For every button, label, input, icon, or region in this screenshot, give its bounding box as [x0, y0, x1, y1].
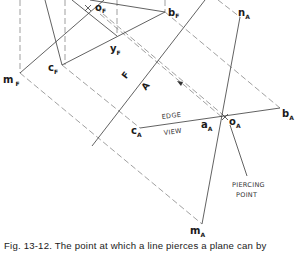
- descriptive-geometry-diagram: oF bF yF cF mF nA bA aA oA cA mA F A EDG…: [0, 0, 297, 256]
- fold-label-F: F: [120, 70, 132, 81]
- label-bF: bF: [168, 7, 179, 19]
- label-cF: cF: [48, 62, 58, 75]
- label-cA: cA: [131, 125, 142, 138]
- label-aA: aA: [201, 119, 213, 132]
- figure-caption: Fig. 13-12. The point at which a line pi…: [4, 240, 297, 251]
- view-label: VIEW: [163, 127, 182, 137]
- label-oF: oF: [95, 2, 106, 14]
- direction-arrow-icon: [177, 81, 183, 86]
- label-yF: yF: [110, 43, 121, 56]
- edge-label: EDGE: [161, 111, 181, 121]
- label-mA: mA: [190, 225, 205, 238]
- piercing-label: PIERCING: [232, 181, 265, 189]
- line-mF: [20, 0, 104, 73]
- label-mF: mF: [3, 74, 20, 87]
- piercing-leader: [230, 125, 247, 176]
- label-bA: bA: [282, 108, 294, 121]
- fold-label-A: A: [140, 80, 152, 92]
- line-bF-cF: [62, 12, 165, 65]
- line-cF-top: [45, 0, 62, 65]
- point-label: POINT: [236, 191, 257, 199]
